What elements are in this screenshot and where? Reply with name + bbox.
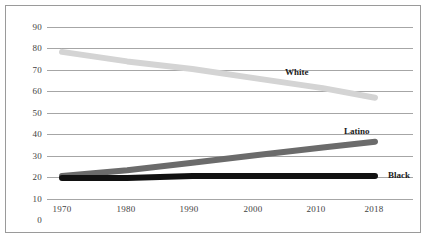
xtick-label-2018: 2018	[352, 205, 396, 214]
xtick-label-2010: 2010	[294, 205, 338, 214]
series-label-white: White	[285, 68, 309, 77]
series-label-latino: Latino	[344, 127, 370, 136]
line-white	[62, 52, 375, 98]
series-label-black: Black	[388, 171, 410, 180]
xtick-label-1970: 1970	[40, 205, 84, 214]
chart-figure: 90 80 70 60 50 40 30 20 10 0 White Latin…	[0, 0, 427, 240]
plot-area: 90 80 70 60 50 40 30 20 10 0 White Latin…	[0, 0, 427, 240]
line-black	[62, 176, 375, 178]
line-latino	[62, 142, 375, 176]
xtick-label-2000: 2000	[231, 205, 275, 214]
xtick-label-1980: 1980	[104, 205, 148, 214]
xtick-label-1990: 1990	[167, 205, 211, 214]
